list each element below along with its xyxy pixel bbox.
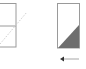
left-arrow-icon [60, 57, 79, 62]
diagram-canvas [0, 0, 86, 69]
dotted-diagonal-line [0, 12, 27, 44]
right-panel [58, 4, 80, 49]
